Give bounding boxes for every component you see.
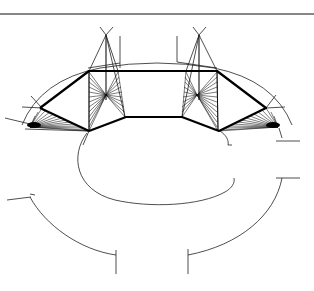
right-extension-lines [266,95,300,141]
left-outer-arc-start-tick-h [7,197,31,200]
inner-ellipse-arc-upper-right [220,131,228,145]
right-bottom-fan-dense-core [266,122,280,128]
left-outer-arc [30,197,116,255]
construction-drawing [0,0,314,291]
right-top-fan [182,71,218,131]
left-bottom-fan-dense-core [27,122,41,128]
right-outer-arc [188,178,282,255]
inner-ellipse-arc [78,133,234,205]
left-outer-arc-start-tick [30,194,35,195]
diagram-canvas [0,0,314,291]
left-top-fan [89,71,125,131]
right-inner-upright [217,71,218,131]
frame-polygon [40,71,266,131]
